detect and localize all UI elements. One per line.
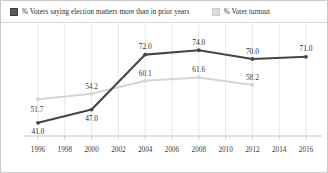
- x-tick-label: 1998: [58, 146, 73, 154]
- data-point: [143, 53, 147, 57]
- data-point: [143, 79, 147, 83]
- chart-plot-area: 51.754.260.161.658.2 41.047.072.074.070.…: [1, 23, 327, 172]
- data-label: 60.1: [139, 69, 152, 78]
- data-label: 61.6: [192, 65, 205, 74]
- chart-x-axis: [24, 136, 322, 140]
- data-point: [304, 55, 308, 59]
- x-tick-label: 2016: [299, 146, 314, 154]
- data-label: 71.0: [300, 44, 313, 53]
- x-tick-label: 2004: [138, 146, 153, 154]
- data-point: [197, 76, 201, 80]
- x-tick-label: 2000: [84, 146, 99, 154]
- legend-swatch-icon-election-matters: [10, 8, 18, 16]
- data-label: 54.2: [85, 82, 98, 91]
- x-tick-label: 2006: [165, 146, 180, 154]
- data-label: 72.0: [139, 42, 152, 51]
- data-point: [36, 121, 40, 125]
- legend-label-voter-turnout: % Voter turnout: [224, 8, 270, 16]
- data-label: 51.7: [31, 105, 44, 114]
- data-point: [197, 48, 201, 52]
- legend-label-election-matters: % Voters saying election matters more th…: [22, 8, 190, 16]
- data-point: [90, 92, 94, 96]
- data-label: 58.2: [246, 73, 259, 82]
- data-label: 70.0: [246, 47, 259, 56]
- x-tick-label: 2010: [218, 146, 233, 154]
- line-chart-svg: 51.754.260.161.658.2 41.047.072.074.070.…: [1, 23, 327, 172]
- x-tick-label: 2002: [111, 146, 126, 154]
- x-tick-label: 2008: [192, 146, 207, 154]
- data-label: 41.0: [32, 127, 45, 136]
- data-point: [90, 108, 94, 112]
- x-axis-tick-labels: 1996199820002002200420062008201020122014…: [31, 146, 314, 154]
- chart-legend: % Voters saying election matters more th…: [1, 1, 327, 23]
- chart-container: % Voters saying election matters more th…: [0, 0, 328, 173]
- data-label: 47.0: [85, 114, 98, 123]
- x-tick-label: 2014: [272, 146, 287, 154]
- data-point: [251, 57, 255, 61]
- x-tick-label: 2012: [245, 146, 260, 154]
- x-tick-label: 1996: [31, 146, 46, 154]
- legend-item-election-matters: % Voters saying election matters more th…: [10, 8, 190, 16]
- legend-swatch-icon-voter-turnout: [212, 8, 220, 16]
- data-point: [36, 97, 40, 101]
- data-label: 74.0: [192, 38, 205, 47]
- legend-item-voter-turnout: % Voter turnout: [212, 8, 270, 16]
- data-point: [251, 83, 255, 87]
